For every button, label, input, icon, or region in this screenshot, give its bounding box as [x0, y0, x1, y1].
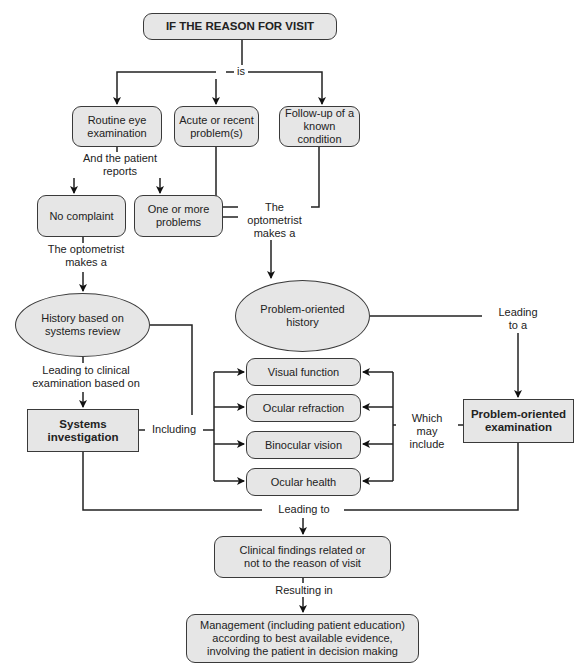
edge-exam-bottom — [343, 443, 518, 510]
label-patient-reports: And the patient reports — [66, 152, 174, 178]
label-including: Including — [145, 423, 203, 436]
edge-is-left — [117, 72, 205, 104]
node-no-complaint: No complaint — [37, 195, 126, 237]
node-binocular-vision: Binocular vision — [246, 431, 361, 459]
node-routine-eye-examination: Routine eye examination — [72, 106, 162, 147]
label-resulting-in: Resulting in — [266, 584, 342, 597]
label-optometrist-center: The optometrist makes a — [238, 201, 311, 240]
label-optometrist-left: The optometrist makes a — [40, 243, 132, 269]
label-leading-to-a: Leading to a — [490, 306, 546, 332]
node-problem-oriented-history: Problem-oriented history — [235, 280, 370, 352]
node-ocular-health: Ocular health — [246, 468, 361, 496]
node-visual-function: Visual function — [246, 358, 361, 386]
label-which-may-include: Which may include — [396, 412, 458, 451]
node-reason-for-visit: IF THE REASON FOR VISIT — [143, 13, 337, 40]
node-history-systems-review: History based on systems review — [15, 293, 150, 357]
node-follow-up: Follow-up of a known condition — [279, 106, 360, 147]
label-leading-clinical: Leading to clinical examination based on — [28, 364, 144, 390]
node-problem-oriented-examination: Problem-oriented examination — [463, 399, 574, 443]
node-acute-problems: Acute or recent problem(s) — [174, 106, 259, 147]
node-ocular-refraction: Ocular refraction — [246, 394, 361, 422]
node-clinical-findings: Clinical findings related or not to the … — [214, 536, 391, 578]
label-is: is — [234, 65, 248, 78]
node-systems-investigation: Systems investigation — [27, 409, 139, 452]
edge-followup-down — [305, 147, 319, 207]
node-management: Management (including patient education)… — [186, 614, 419, 663]
node-one-or-more-problems: One or more problems — [134, 195, 223, 237]
label-leading-to: Leading to — [264, 503, 344, 516]
edge-history-right — [150, 325, 192, 415]
